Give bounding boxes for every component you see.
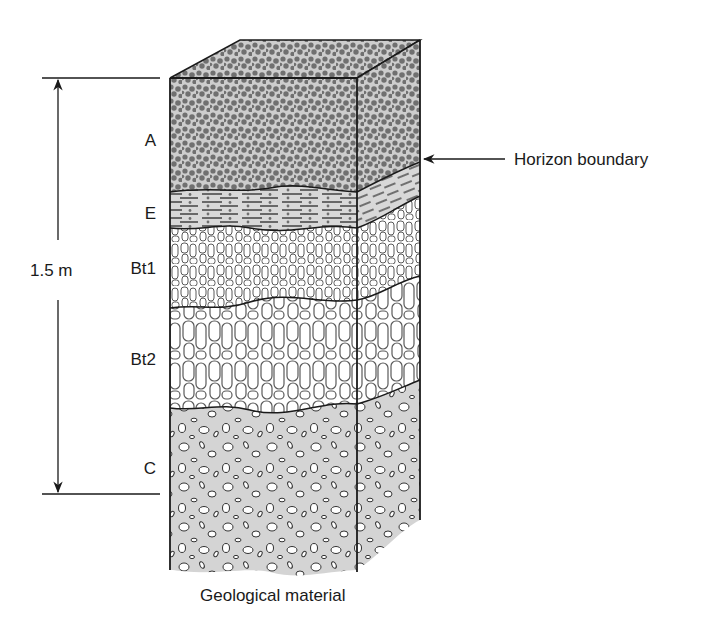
front-face (170, 78, 357, 575)
soil-profile-diagram: 1.5 m A E Bt1 Bt2 C Horizon boundary Geo… (0, 0, 725, 618)
soil-block-illustration (0, 0, 725, 618)
horizon-label-A: A (110, 132, 156, 149)
horizon-E-front (170, 186, 357, 231)
scale-label: 1.5 m (30, 262, 73, 279)
horizon-label-E: E (110, 205, 156, 222)
horizon-A-front (170, 78, 357, 192)
horizon-Bt1-front (170, 226, 357, 308)
side-face (357, 40, 420, 570)
horizon-label-C: C (110, 460, 156, 477)
horizon-Bt2-front (170, 297, 357, 413)
geological-material-label: Geological material (200, 587, 346, 604)
horizon-label-Bt2: Bt2 (110, 351, 156, 368)
horizon-boundary-label: Horizon boundary (514, 151, 648, 168)
horizon-label-Bt1: Bt1 (110, 260, 156, 277)
horizon-C-front (170, 403, 357, 575)
